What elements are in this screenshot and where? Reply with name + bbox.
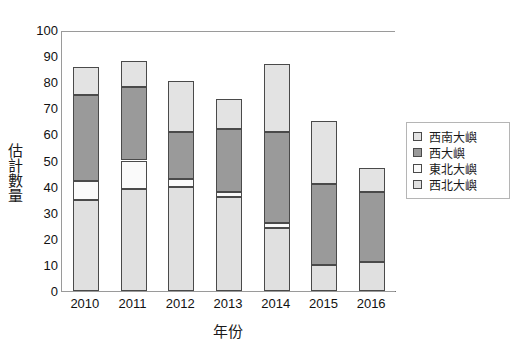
legend-swatch-icon <box>413 180 422 189</box>
legend-item[interactable]: 西南大嶼 <box>413 129 505 144</box>
y-tick-label: 40 <box>24 181 58 195</box>
bar-segment[interactable] <box>73 200 99 291</box>
y-tick-label: 80 <box>24 76 58 90</box>
bar-segment[interactable] <box>359 262 385 291</box>
bar-group[interactable] <box>73 30 99 291</box>
bar-segment[interactable] <box>121 189 147 291</box>
x-axis-title: 年份 <box>61 320 395 341</box>
bar-segment[interactable] <box>264 223 290 228</box>
legend-label: 西南大嶼 <box>429 128 477 145</box>
bar-segment[interactable] <box>73 181 99 199</box>
bar-segment[interactable] <box>168 187 194 291</box>
bar-segment[interactable] <box>121 161 147 190</box>
y-axis-tick-labels: 0102030405060708090100 <box>24 24 58 300</box>
bar-segment[interactable] <box>121 87 147 160</box>
bar-segment[interactable] <box>216 129 242 192</box>
bar-segment[interactable] <box>264 132 290 223</box>
bar-group[interactable] <box>311 30 337 291</box>
bar-group[interactable] <box>359 30 385 291</box>
bar-segment[interactable] <box>216 197 242 291</box>
chart-legend: 西南大嶼西大嶼東北大嶼西北大嶼 <box>406 122 510 199</box>
bars-container <box>62 32 395 291</box>
x-tick-label: 2016 <box>341 296 401 311</box>
legend-item[interactable]: 西大嶼 <box>413 145 505 160</box>
legend-label: 西北大嶼 <box>429 176 477 193</box>
y-tick-label: 100 <box>24 24 58 38</box>
plot-area <box>61 31 395 292</box>
bar-group[interactable] <box>121 30 147 291</box>
legend-item[interactable]: 西北大嶼 <box>413 177 505 192</box>
bar-segment[interactable] <box>311 265 337 291</box>
y-tick-label: 60 <box>24 128 58 142</box>
legend-label: 東北大嶼 <box>429 160 477 177</box>
y-tick-label: 30 <box>24 207 58 221</box>
legend-swatch-icon <box>413 132 422 141</box>
y-tick-label: 20 <box>24 233 58 247</box>
bar-segment[interactable] <box>311 121 337 184</box>
legend-item[interactable]: 東北大嶼 <box>413 161 505 176</box>
bar-segment[interactable] <box>168 179 194 187</box>
bar-segment[interactable] <box>216 99 242 129</box>
bar-segment[interactable] <box>168 132 194 179</box>
y-tick-label: 10 <box>24 259 58 273</box>
bar-segment[interactable] <box>168 81 194 132</box>
bar-segment[interactable] <box>73 95 99 181</box>
y-tick-label: 90 <box>24 50 58 64</box>
bar-segment[interactable] <box>216 192 242 197</box>
bar-group[interactable] <box>264 30 290 291</box>
legend-label: 西大嶼 <box>429 144 465 161</box>
bar-segment[interactable] <box>359 192 385 262</box>
legend-swatch-icon <box>413 164 422 173</box>
bar-segment[interactable] <box>121 61 147 87</box>
bar-group[interactable] <box>168 30 194 291</box>
y-tick-label: 0 <box>24 285 58 299</box>
y-tick-label: 50 <box>24 155 58 169</box>
bar-group[interactable] <box>216 30 242 291</box>
chart-figure: 估計數量 0102030405060708090100 年份 西南大嶼西大嶼東北… <box>0 0 519 358</box>
bar-segment[interactable] <box>359 168 385 191</box>
bar-segment[interactable] <box>264 64 290 132</box>
bar-segment[interactable] <box>311 184 337 265</box>
y-tick-label: 70 <box>24 102 58 116</box>
legend-swatch-icon <box>413 148 422 157</box>
bar-segment[interactable] <box>73 67 99 96</box>
bar-segment[interactable] <box>264 228 290 291</box>
